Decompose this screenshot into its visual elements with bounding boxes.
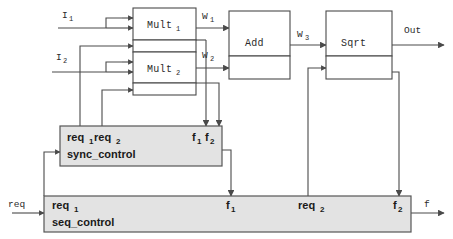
seq-port-req2-sub: 2	[320, 205, 325, 214]
block-diagram: Mult 1 Mult 2 Add Sqrt req 1 re	[0, 0, 453, 239]
w3-sub: 3	[305, 34, 309, 42]
block-add[interactable]: Add	[229, 11, 290, 79]
out-label: Out	[404, 25, 421, 36]
label-signal-w3: W 3	[297, 29, 309, 42]
seq-port-f2-label: f	[393, 199, 397, 211]
wire-i2-branch-up	[106, 62, 122, 72]
w2-label: W	[202, 50, 208, 61]
sqrt-control-strip	[326, 56, 392, 79]
wire-i1-branch-up	[106, 18, 122, 28]
w1-label: W	[202, 11, 208, 22]
mult1-control-strip	[133, 40, 196, 52]
label-input-i2: I 2	[56, 52, 67, 65]
block-sqrt[interactable]: Sqrt	[326, 11, 392, 79]
wire-req2-to-mult2	[102, 90, 133, 126]
wire-f2-sqrt-to-seq	[392, 72, 399, 196]
sync-port-req2-label: req	[94, 131, 111, 143]
w2-sub: 2	[210, 55, 214, 63]
w1-sub: 1	[210, 16, 214, 24]
sync-port-f1-label: f	[192, 131, 196, 143]
add-body	[229, 11, 290, 56]
block-mult2[interactable]: Mult 2	[133, 52, 196, 95]
sync-port-req1-label: req	[67, 131, 84, 143]
wire-f1-sync-to-seq	[222, 150, 231, 196]
mult2-label-sub: 2	[176, 69, 180, 77]
label-input-i1: I 1	[62, 10, 73, 23]
seq-port-f1-label: f	[226, 199, 230, 211]
seq-port-f2-sub: 2	[398, 205, 403, 214]
sqrt-body	[326, 11, 392, 56]
wire-req2-to-sqrt	[308, 68, 326, 196]
sync-control-name: sync_control	[67, 148, 135, 160]
req-external-label: req	[8, 199, 25, 210]
label-signal-w2: W 2	[202, 50, 214, 63]
seq-port-f1-sub: 1	[231, 205, 236, 214]
wire-req1-seq-to-sync	[44, 152, 60, 196]
block-sync-control[interactable]: req 1 req 2 f 1 f 2 sync_control	[60, 126, 222, 166]
sync-port-f1-sub: 1	[197, 137, 202, 146]
mult2-control-strip	[133, 83, 196, 95]
mult2-label: Mult	[147, 64, 172, 75]
sync-port-req2-sub: 2	[116, 137, 121, 146]
wire-f2-mult2-to-sync	[196, 83, 219, 126]
seq-control-name: seq_control	[52, 216, 114, 228]
sync-port-f2-label: f	[205, 131, 209, 143]
diagram-canvas: Mult 1 Mult 2 Add Sqrt req 1 re	[0, 0, 453, 239]
block-seq-control[interactable]: req 1 f 1 req 2 f 2 seq_control	[44, 196, 411, 232]
seq-port-req2-label: req	[298, 199, 315, 211]
i1-label: I	[62, 10, 68, 21]
f-external-label: f	[424, 199, 430, 210]
add-control-strip	[229, 56, 290, 79]
seq-port-req1-label: req	[52, 199, 69, 211]
i1-sub: 1	[69, 15, 73, 23]
sync-control-body	[60, 126, 222, 166]
sqrt-label: Sqrt	[341, 38, 366, 49]
block-mult1[interactable]: Mult 1	[133, 8, 196, 52]
label-signal-w1: W 1	[202, 11, 214, 24]
mult1-label-sub: 1	[176, 25, 180, 33]
w3-label: W	[297, 29, 303, 40]
sync-port-f2-sub: 2	[210, 137, 215, 146]
seq-port-req1-sub: 1	[74, 205, 79, 214]
wire-req1-to-mult1	[80, 46, 133, 126]
label-output-out: Out	[404, 25, 421, 36]
i2-label: I	[56, 52, 62, 63]
add-label: Add	[245, 38, 264, 49]
mult1-label: Mult	[147, 20, 172, 31]
label-external-req: req	[8, 199, 25, 210]
i2-sub: 2	[63, 57, 67, 65]
label-external-f: f	[424, 199, 430, 210]
